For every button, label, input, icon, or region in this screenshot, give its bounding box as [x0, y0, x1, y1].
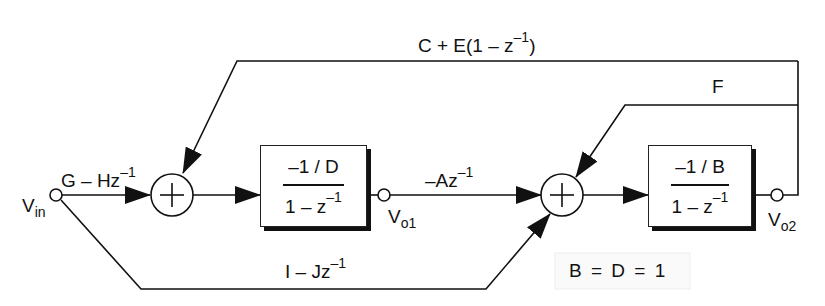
vo2-node: [771, 189, 783, 201]
vo1-label: Vo1: [388, 207, 416, 226]
gain-i-j: I – Jz–1: [285, 259, 346, 281]
gain-f: F: [712, 77, 724, 96]
summer-1: [151, 174, 193, 216]
wire-vo2-feedback: [783, 61, 798, 195]
gain-c-e: C + E(1 – z–1): [418, 33, 535, 55]
fraction-bar: [283, 184, 344, 186]
summer-2: [541, 174, 583, 216]
gain-a: –Az–1: [425, 168, 473, 190]
block1-denominator: 1 – z–1: [261, 193, 366, 218]
vo2-label: Vo2: [768, 210, 796, 229]
integrator-block-2: –1 / B 1 – z–1: [648, 145, 752, 227]
block2-numerator: –1 / B: [649, 156, 751, 178]
vo1-node: [378, 189, 390, 201]
parameter-note: B = D = 1: [569, 261, 665, 280]
integrator-block-1: –1 / D 1 – z–1: [260, 145, 367, 227]
block2-denominator: 1 – z–1: [649, 193, 751, 218]
vin-label: Vin: [22, 196, 46, 215]
fraction-bar: [671, 184, 729, 186]
block1-numerator: –1 / D: [261, 156, 366, 178]
gain-g-h: G – Hz–1: [61, 168, 136, 190]
